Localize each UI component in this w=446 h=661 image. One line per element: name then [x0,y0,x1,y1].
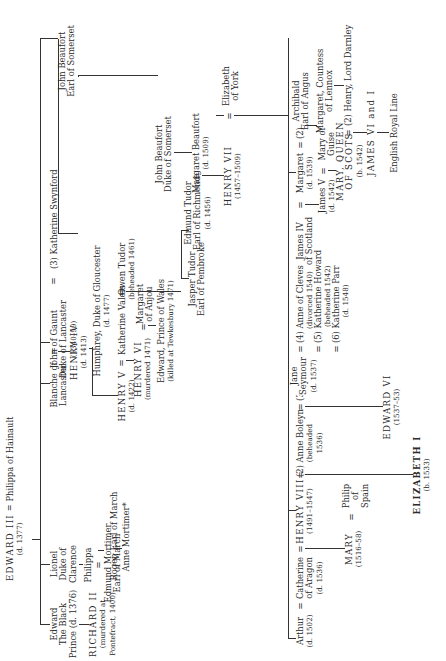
roger-march: Roger, Earl of March [110,492,119,581]
marriage-symbol: = [348,513,357,521]
connector [92,395,118,396]
anne-cleves: (4) Anne of Cleves [296,265,305,343]
margaret-tudor: Margaret (d. 1539) [296,153,315,193]
katherine-howard: (5) Katherine Howard [314,250,323,343]
marriage-symbol: = [297,201,306,209]
edward-iii-children-bar [40,39,41,625]
marriage-symbol: = [297,403,306,411]
connector [305,406,383,407]
jane-seymour: Jane Seymour (d. 1537) [290,357,318,395]
james-iv: James IV of Scotland [296,217,315,265]
edward-vi: EDWARD VI (1537–53) [383,374,402,439]
connector [174,152,192,153]
tudor-sons-bar [181,231,182,279]
elizabeth-york: Elizabeth of York [222,66,241,106]
connector [148,325,156,326]
james-v: James V (d. 1542) [318,179,337,213]
philip-spain: Philip of Spain [342,484,370,508]
marriage-symbol: = [345,129,354,137]
connector [40,38,58,39]
anne-mortimer: Anne Mortimer* [122,502,131,571]
english-royal-line: English Royal Line [390,93,399,173]
anne-boleyn: (2) Anne Boleyn (beheaded 1536) [296,409,324,477]
margaret-beaufort: Margaret Beaufort (d. 1509) [192,113,211,193]
marriage-symbol: = [320,167,329,175]
connector [98,550,104,551]
lionel-clarence: Lionel Duke of Clarence [50,545,78,583]
henry-vii: HENRY VII (1457–1509) [224,146,243,207]
john-beaufort-duke: John Beaufort Duke of Somerset [155,116,174,192]
henry-vi: HENRY VI (murdered 1471) [134,338,153,400]
marriage-symbol: = [50,277,59,285]
margaret-anjou: Margaret of Anjou [136,284,155,324]
edward-iii: EDWARD III = Philippa of Hainault [6,417,15,581]
henry-viii: HENRY VIII (1491–1547) [296,478,315,543]
connector [216,115,224,116]
margaret-lennox: Margaret, Countess of Lennox [316,49,335,134]
philippa-hainault: Philippa of Hainault [5,417,15,502]
connector [234,115,288,116]
family-tree: EDWARD III = Philippa of Hainault (d. 13… [0,0,446,661]
edward-black-prince: Edward The Black Prince (d. 1376) [50,590,78,659]
marriage-symbol: = [315,345,324,353]
connector [78,75,158,76]
james-vi-and-i: JAMES VI and I [367,90,376,176]
katherine-parr: (6) Katherine Parr [332,266,341,343]
edward-iii-dates: (d. 1377) [15,522,24,555]
elizabeth-i: ELIZABETH I (b. 1533) [413,435,432,514]
humphrey-gloucester: Humphrey, Duke of Gloucester (d. 1477) [93,246,112,377]
henry-vii-children-bar [288,38,289,639]
connector [305,548,345,549]
connector [58,233,78,234]
archibald-angus: Archibald Earl of Angus [292,72,311,130]
katherine-parr-note: (d. 1548) [341,284,350,317]
marriage-symbol: = [5,504,15,511]
marriage-symbol: = [297,602,306,610]
marriage-symbol: = [297,141,306,149]
connector [78,76,79,77]
connector [305,474,413,475]
marriage-symbol: = [226,112,235,120]
jasper-tudor: Jasper Tudor Earl of Pembroke [188,242,207,316]
catherine-aragon: Catherine of Aragon (d. 1536) [296,557,324,599]
arthur: Arthur (d. 1502) [296,614,315,647]
connector [377,132,389,133]
darnley: (2) Henry, Lord Darnley [344,25,353,126]
edward-prince-wales: Edward, Prince of Wales (killed at Tewke… [157,279,176,383]
marriage-symbol: = [333,345,342,353]
john-beaufort-earl: John Beaufort Earl of Somerset [58,25,77,97]
henry-iv: HENRY IV (d. 1413) [70,324,89,380]
marriage-symbol: = [297,545,306,553]
connector [353,132,367,133]
mary-i: MARY (1516–58) [345,531,364,568]
connector [202,175,224,176]
edward-iii-name: EDWARD III [5,514,15,581]
marriage-symbol: = [297,345,306,353]
philippa: Philippa [84,548,93,583]
